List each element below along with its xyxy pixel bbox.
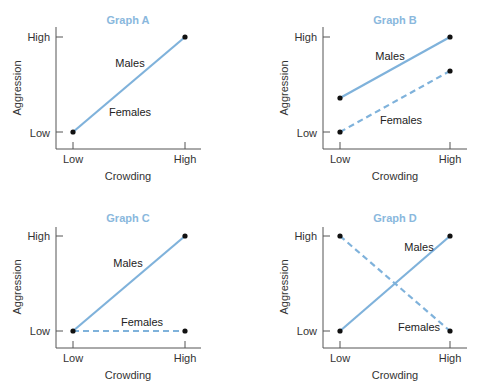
graph-b-y-axis-title: Aggression [278, 60, 290, 115]
graph-b-xlabel-low: Low [330, 153, 350, 165]
graph-c-y-axis-title: Aggression [11, 259, 23, 314]
graph-c-ylabel-low: Low [30, 325, 50, 337]
graph-d: Graph D High Low Low High Crowding Aggre… [278, 212, 467, 381]
graph-c-ylabel-high: High [27, 230, 50, 242]
graph-d-point [337, 233, 342, 238]
graph-d-males-label: Males [404, 241, 434, 253]
graph-b-point [337, 129, 342, 134]
graph-a-males-label: Males [115, 57, 145, 69]
graph-c-males-label: Males [113, 257, 143, 269]
graph-d-x-axis-title: Crowding [372, 369, 418, 381]
graph-a-xlabel-high: High [174, 153, 197, 165]
graph-d-point [447, 328, 452, 333]
graph-c-point [182, 328, 187, 333]
graph-b-males-label: Males [375, 50, 405, 62]
graph-a-axes [56, 27, 201, 149]
graph-a-females-label: Females [109, 106, 152, 118]
graph-c: Graph C High Low Low High Crowding Aggre… [11, 212, 201, 381]
graph-b-point [447, 34, 452, 39]
graph-d-axes [323, 227, 467, 348]
interaction-graphs: Graph A High Low Low High Crowding Aggre… [0, 0, 480, 388]
graph-b-ylabel-high: High [294, 31, 317, 43]
graph-d-xlabel-high: High [439, 352, 462, 364]
graph-a-xlabel-low: Low [63, 153, 83, 165]
graph-d-xlabel-low: Low [330, 352, 350, 364]
graph-d-females-label: Females [398, 321, 441, 333]
graph-a-point [182, 34, 187, 39]
graph-a-ylabel-high: High [27, 31, 50, 43]
graph-a-x-axis-title: Crowding [105, 170, 151, 182]
graph-b-x-axis-title: Crowding [372, 170, 418, 182]
graph-a-title: Graph A [107, 14, 150, 26]
graph-d-title: Graph D [373, 212, 416, 224]
graph-d-point [337, 328, 342, 333]
graph-c-axes [56, 227, 201, 348]
graph-a-point [70, 129, 75, 134]
graph-b-title: Graph B [373, 14, 416, 26]
graph-c-point [70, 328, 75, 333]
graph-a-y-axis-title: Aggression [11, 60, 23, 115]
graph-c-point [182, 233, 187, 238]
graph-b-females-label: Females [380, 114, 423, 126]
graph-b-point [447, 68, 452, 73]
graph-b-males-line [340, 37, 450, 98]
graph-b-ylabel-low: Low [297, 127, 317, 139]
graph-b-point [337, 95, 342, 100]
graph-b: Graph B High Low Low High Crowding Aggre… [278, 14, 467, 182]
graph-d-point [447, 233, 452, 238]
graph-a: Graph A High Low Low High Crowding Aggre… [11, 14, 201, 182]
graph-c-xlabel-low: Low [63, 352, 83, 364]
graph-c-females-label: Females [121, 316, 164, 328]
graph-c-xlabel-high: High [174, 352, 197, 364]
graph-d-ylabel-low: Low [297, 325, 317, 337]
graph-c-x-axis-title: Crowding [105, 369, 151, 381]
graph-b-xlabel-high: High [439, 153, 462, 165]
graph-d-y-axis-title: Aggression [278, 259, 290, 314]
graph-c-title: Graph C [106, 212, 149, 224]
graph-a-ylabel-low: Low [30, 127, 50, 139]
graph-d-ylabel-high: High [294, 230, 317, 242]
